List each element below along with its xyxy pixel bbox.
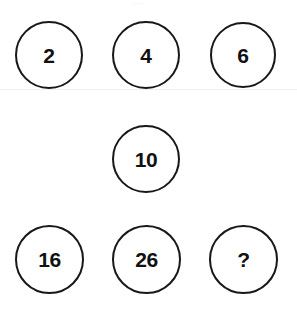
horizontal-divider-line [0, 89, 297, 90]
circle-node-4[interactable]: 10 [112, 125, 180, 193]
circle-node-6-value: 26 [135, 249, 157, 270]
circle-node-1[interactable]: 2 [15, 21, 83, 89]
circle-node-5[interactable]: 16 [15, 225, 84, 294]
circle-node-5-value: 16 [38, 249, 60, 270]
top-artifact-mark [131, 2, 145, 5]
circle-node-7-value: ? [237, 249, 250, 270]
circle-node-3[interactable]: 6 [210, 22, 276, 88]
circle-node-3-value: 6 [237, 45, 248, 66]
circle-node-4-value: 10 [135, 149, 157, 170]
number-sequence-puzzle: 2 4 6 10 16 26 ? [0, 0, 297, 309]
circle-node-6[interactable]: 26 [112, 225, 181, 294]
circle-node-2-value: 4 [140, 45, 151, 66]
circle-node-1-value: 2 [43, 45, 54, 66]
circle-node-7-unknown[interactable]: ? [209, 225, 278, 294]
circle-node-2[interactable]: 4 [112, 21, 180, 89]
